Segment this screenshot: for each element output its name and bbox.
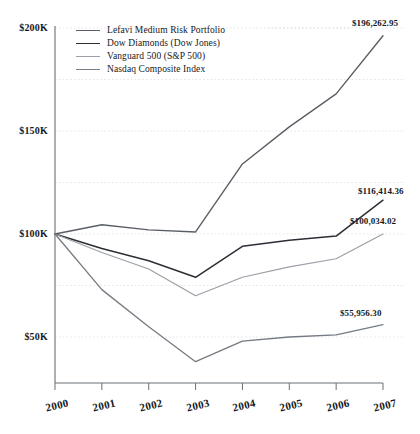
legend-item-3[interactable]: Nasdaq Composite Index [76,63,291,76]
investment-growth-line-chart: $200K$150K$100K$50K 20002001200220032004… [0,0,420,434]
legend-item-label: Nasdaq Composite Index [107,63,205,76]
legend-line-swatch-icon [76,43,100,44]
y-axis-tick-label: $100K [4,228,48,239]
legend-line-swatch-icon [76,56,100,57]
legend-item-0[interactable]: Lefavi Medium Risk Portfolio [76,24,291,37]
data-series-group [55,36,383,362]
endpoint-value-label-3: $55,956.30 [340,308,382,318]
legend-line-swatch-icon [76,69,100,70]
chart-legend: Lefavi Medium Risk PortfolioDow Diamonds… [76,24,291,76]
legend-item-1[interactable]: Dow Diamonds (Dow Jones) [76,37,291,50]
legend-item-label: Lefavi Medium Risk Portfolio [107,24,225,37]
y-axis-tick-label: $150K [4,125,48,136]
series-line-2 [55,234,383,296]
legend-line-swatch-icon [76,30,100,31]
legend-item-label: Dow Diamonds (Dow Jones) [107,37,220,50]
legend-item-2[interactable]: Vanguard 500 (S&P 500) [76,50,291,63]
series-line-1 [55,200,383,277]
legend-item-label: Vanguard 500 (S&P 500) [107,50,205,63]
y-axis-tick-label: $200K [4,22,48,33]
endpoint-value-label-0: $196,262.95 [352,18,398,28]
y-axis-tick-label: $50K [4,331,48,342]
endpoint-value-label-2: $100,034.02 [350,216,396,226]
endpoint-value-label-1: $116,414.36 [358,186,404,196]
